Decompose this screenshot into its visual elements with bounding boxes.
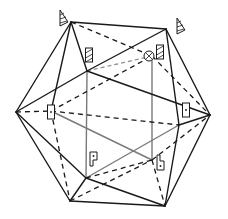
visible-edge-AE <box>71 22 87 71</box>
3-fold-axis-top-right-icon <box>177 18 185 34</box>
visible-edge-CI <box>16 112 70 201</box>
2-fold-axis-lower-right-icon <box>157 155 164 170</box>
visible-edge-AC <box>16 22 71 112</box>
2-fold-axis-lower-left-icon <box>90 152 97 166</box>
hidden-edge-GK <box>86 160 152 178</box>
visible-edge-GI <box>70 178 86 201</box>
frame-edge-GH <box>86 125 179 178</box>
visible-edge-IJ <box>70 201 165 206</box>
frame-hidden-edge-EF <box>87 56 152 71</box>
visible-edge-HJ <box>165 125 179 206</box>
hidden-edge-KD <box>152 115 210 160</box>
2-fold-axis-left-icon <box>48 105 55 119</box>
icosahedron-diagram <box>0 0 228 219</box>
visible-edge-AB <box>71 22 166 29</box>
hidden-edges <box>16 22 210 206</box>
frame-edge-PK <box>51 111 152 160</box>
hidden-edge-FD <box>152 56 210 115</box>
3-fold-axis-top-left-icon <box>60 10 68 26</box>
visible-edges <box>16 22 210 206</box>
diagram-canvas <box>0 0 228 219</box>
hidden-edge-PI <box>51 111 70 201</box>
2-fold-axis-right-icon <box>183 103 190 117</box>
5-fold-axis-center-icon <box>144 51 154 61</box>
hidden-edge-PH <box>51 111 179 125</box>
hidden-edge-IK <box>70 160 152 201</box>
visible-edge-CG <box>16 112 86 178</box>
hidden-edge-CP <box>16 111 51 112</box>
visible-edge-EB <box>87 29 166 71</box>
visible-edge-BH <box>166 29 179 125</box>
2-fold-axis-upper-left-icon <box>86 48 93 62</box>
visible-edge-AP <box>51 22 71 111</box>
2-fold-axis-upper-right-icon <box>157 45 164 59</box>
frame-edge-EG <box>86 71 87 178</box>
